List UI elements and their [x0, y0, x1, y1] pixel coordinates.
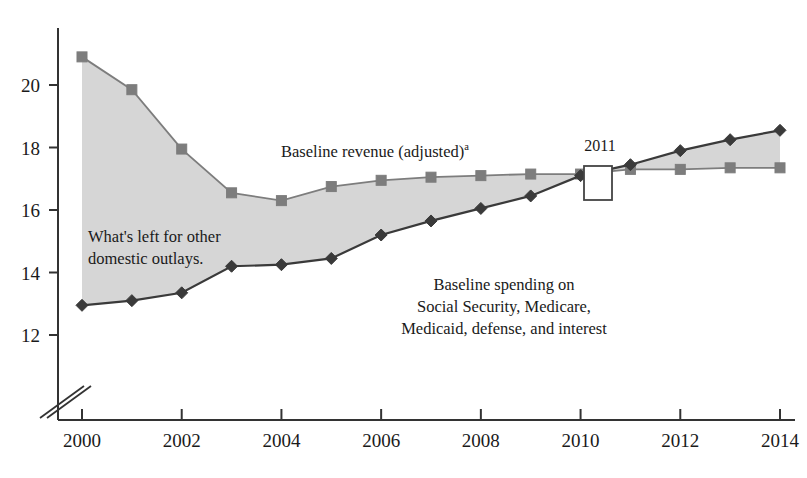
data-point-revenue-2014[interactable] [775, 163, 785, 173]
spending-label-line-1: Baseline spending on [433, 275, 574, 294]
y-tick-label-12: 12 [21, 325, 40, 346]
data-point-revenue-2006[interactable] [376, 175, 386, 185]
shaded-area-label-line-1: What's left for other [88, 227, 221, 246]
axis-break-marker [40, 386, 91, 418]
year-highlight-box[interactable] [584, 166, 612, 200]
y-tick-label-18: 18 [21, 138, 40, 159]
data-point-revenue-2004[interactable] [276, 196, 286, 206]
data-point-revenue-2001[interactable] [127, 85, 137, 95]
data-point-revenue-2007[interactable] [426, 172, 436, 182]
x-tick-label-2004: 2004 [262, 430, 301, 451]
data-point-revenue-2008[interactable] [476, 171, 486, 181]
x-tick-label-2006: 2006 [362, 430, 400, 451]
data-point-revenue-2013[interactable] [725, 163, 735, 173]
revenue-label-superscript: a [464, 141, 469, 152]
chart-figure: 1214161820200020022004200620082010201220… [0, 0, 807, 478]
revenue-label-line-1: Baseline revenue (adjusted)a [281, 141, 469, 161]
data-point-revenue-2005[interactable] [326, 182, 336, 192]
data-point-revenue-2002[interactable] [177, 144, 187, 154]
axis-break-slash [47, 386, 91, 418]
spending-label-line-3: Medicaid, defense, and interest [401, 319, 607, 338]
data-point-revenue-2012[interactable] [675, 164, 685, 174]
y-tick-label-20: 20 [21, 75, 40, 96]
shaded-area-label-line-2: domestic outlays. [88, 249, 203, 268]
x-tick-label-2000: 2000 [63, 430, 101, 451]
chart-canvas: 1214161820200020022004200620082010201220… [0, 0, 807, 478]
x-tick-label-2010: 2010 [562, 430, 600, 451]
spending-label-line-2: Social Security, Medicare, [417, 297, 591, 316]
year-highlight-label: 2011 [584, 137, 615, 154]
data-point-revenue-2003[interactable] [227, 188, 237, 198]
x-tick-label-2002: 2002 [163, 430, 201, 451]
x-tick-label-2008: 2008 [462, 430, 500, 451]
data-point-revenue-2009[interactable] [526, 169, 536, 179]
x-tick-label-2014: 2014 [761, 430, 800, 451]
y-tick-label-14: 14 [21, 263, 41, 284]
x-tick-label-2012: 2012 [661, 430, 699, 451]
y-tick-label-16: 16 [21, 200, 40, 221]
axis-break-slash [40, 386, 84, 418]
data-point-revenue-2000[interactable] [77, 52, 87, 62]
